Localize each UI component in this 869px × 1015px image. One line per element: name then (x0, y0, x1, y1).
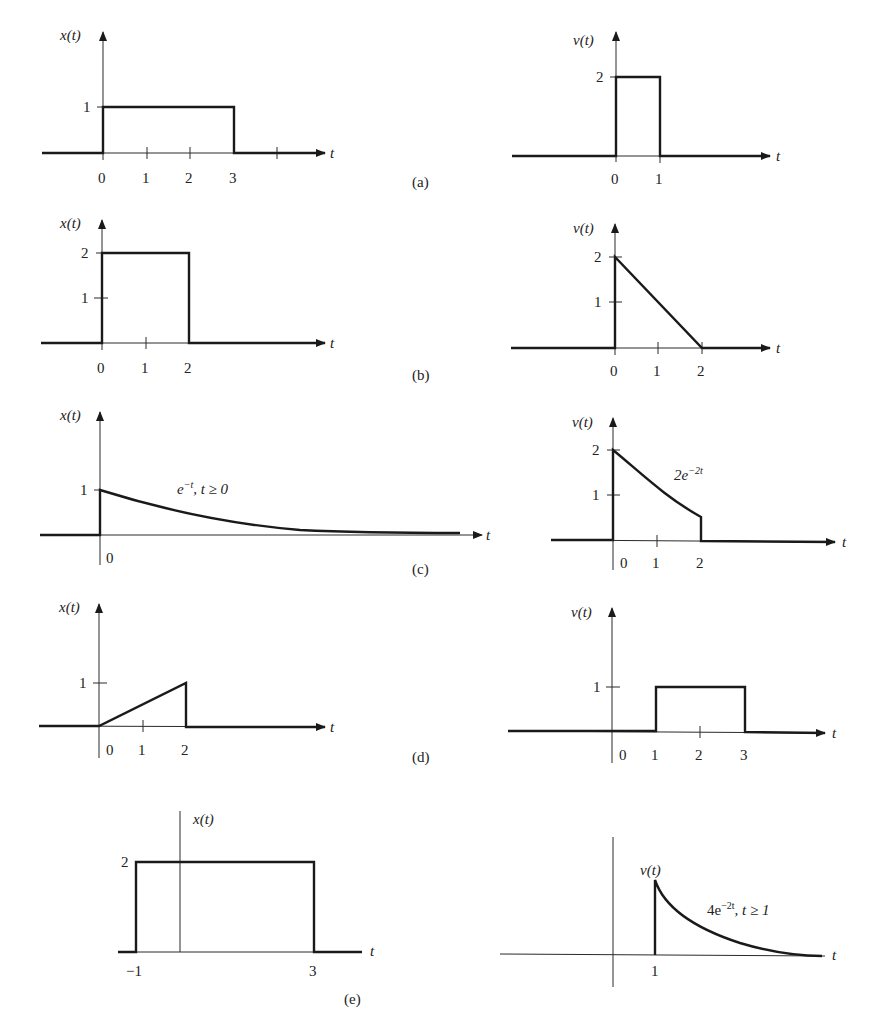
xtick-2: 2 (697, 363, 705, 379)
ytick-2: 2 (594, 249, 602, 265)
xtick-0: 0 (106, 742, 114, 758)
x-signal-c (40, 490, 460, 535)
x-signal-e (118, 862, 362, 952)
panel-a-x-plot: x(t) 1 0 1 2 3 t (42, 27, 335, 186)
v-signal-d (508, 687, 825, 733)
ytick-1: 1 (593, 679, 601, 695)
xtick-1: 1 (653, 363, 661, 379)
annotation-4e-minus-2t: 4e−2t, t ≥ 1 (707, 900, 770, 918)
v-signal-a (512, 77, 770, 156)
t-label: t (330, 719, 335, 735)
xtick-0: 0 (620, 555, 628, 571)
v-signal-e (655, 880, 822, 956)
ytick-2: 2 (596, 69, 604, 85)
panel-c-v-plot: v(t) 2 1 0 1 2 2e−2t t (551, 414, 847, 571)
ytick-1: 1 (79, 675, 87, 691)
xtick-1: 1 (138, 742, 146, 758)
xtick-3: 3 (740, 747, 748, 763)
t-label: t (842, 534, 847, 550)
panel-c-x-plot: x(t) 1 0 e−t, t ≥ 0 t (40, 407, 491, 566)
signals-figure: x(t) 1 0 1 2 3 t (a) v(t) 2 0 1 t x(t) 2… (0, 0, 869, 1015)
t-label: t (832, 725, 837, 741)
panel-d-x-plot: x(t) 1 0 1 2 t (39, 599, 335, 758)
ylabel-x: x(t) (192, 811, 214, 828)
panel-e-v-plot: v(t) 1 4e−2t, t ≥ 1 t (500, 837, 837, 987)
panel-label-e: (e) (344, 991, 361, 1008)
xtick-1: 1 (651, 747, 659, 763)
xtick-minus1: −1 (126, 963, 142, 979)
ylabel-x: x(t) (59, 27, 81, 44)
annotation-2e-minus-2t: 2e−2t (674, 465, 703, 483)
xtick-1: 1 (141, 360, 149, 376)
xtick-3: 3 (309, 963, 317, 979)
t-label: t (370, 943, 375, 959)
xtick-2: 2 (185, 170, 193, 186)
xtick-3: 3 (229, 170, 237, 186)
xtick-0: 0 (98, 170, 106, 186)
t-axis (500, 954, 825, 956)
ytick-1: 1 (83, 99, 91, 115)
ytick-1: 1 (80, 482, 88, 498)
annotation-e-minus-t: e−t, t ≥ 0 (177, 479, 229, 497)
xtick-1: 1 (655, 171, 663, 187)
ytick-1: 1 (592, 487, 600, 503)
ylabel-v: v(t) (571, 604, 592, 621)
ytick-2: 2 (121, 854, 129, 870)
ylabel-v: v(t) (573, 220, 594, 237)
panel-b-v-plot: v(t) 2 1 0 1 2 t (511, 220, 781, 379)
xtick-2: 2 (695, 747, 703, 763)
xtick-1: 1 (651, 963, 659, 979)
t-label: t (330, 145, 335, 161)
panel-label-d: (d) (412, 749, 430, 766)
t-label: t (776, 340, 781, 356)
panel-e-x-plot: x(t) 2 −1 3 t (118, 811, 375, 979)
t-label: t (486, 527, 491, 543)
xtick-2: 2 (696, 555, 704, 571)
ytick-2: 2 (81, 245, 89, 261)
xtick-0: 0 (97, 360, 105, 376)
panel-d-v-plot: v(t) 1 0 1 2 3 t (508, 604, 837, 763)
xtick-1: 1 (652, 555, 660, 571)
xtick-0: 0 (610, 363, 618, 379)
t-label: t (832, 947, 837, 963)
ylabel-v: v(t) (573, 32, 594, 49)
ytick-1: 1 (594, 294, 602, 310)
xtick-2: 2 (181, 742, 189, 758)
ylabel-x: x(t) (59, 215, 81, 232)
ylabel-v: v(t) (572, 414, 593, 431)
panel-b-x-plot: x(t) 2 1 0 1 2 t (41, 215, 335, 376)
xtick-2: 2 (184, 360, 192, 376)
ylabel-v: v(t) (640, 862, 661, 879)
xtick-1: 1 (142, 170, 150, 186)
xtick-0: 0 (106, 550, 114, 566)
xtick-0: 0 (619, 747, 627, 763)
ytick-1: 1 (81, 290, 89, 306)
panel-a-v-plot: v(t) 2 0 1 t (512, 32, 781, 187)
xtick-0: 0 (611, 171, 619, 187)
panel-label-b: (b) (412, 367, 430, 384)
t-label: t (330, 335, 335, 351)
v-signal-b (511, 257, 770, 348)
t-label: t (776, 148, 781, 164)
ylabel-x: x(t) (59, 407, 81, 424)
panel-label-c: (c) (412, 561, 429, 578)
ytick-2: 2 (592, 442, 600, 458)
panel-label-a: (a) (412, 174, 429, 191)
ylabel-x: x(t) (58, 599, 80, 616)
